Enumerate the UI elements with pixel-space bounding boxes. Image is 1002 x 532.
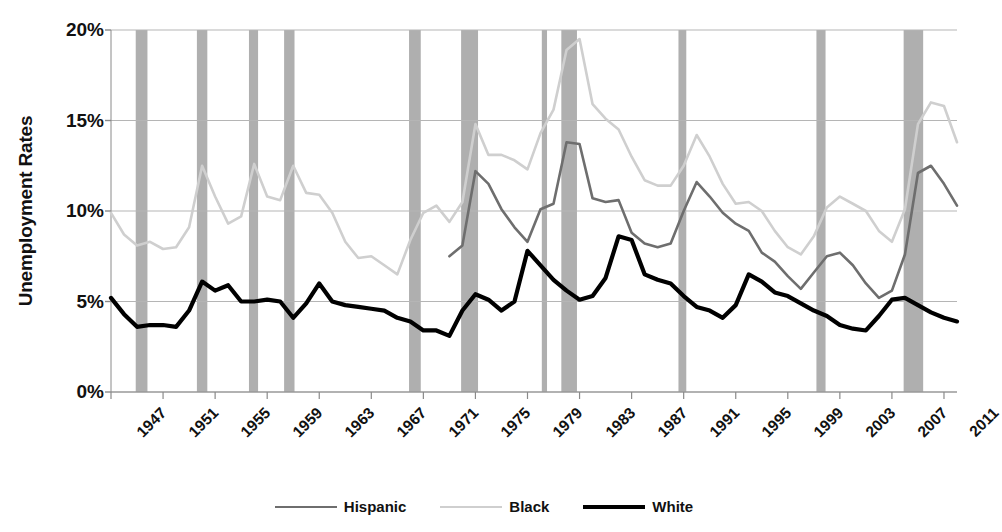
legend-label: Hispanic	[344, 498, 407, 515]
legend-swatch-hispanic	[275, 506, 337, 508]
y-axis-tick-label: 15%	[34, 110, 104, 132]
series-line-black	[111, 39, 957, 274]
legend-label: White	[652, 498, 693, 515]
legend-swatch-black	[440, 506, 502, 508]
y-axis-tick-label: 10%	[34, 200, 104, 222]
y-axis-tick-label: 5%	[34, 291, 104, 313]
y-axis-tick-labels: 0%5%10%15%20%	[34, 0, 104, 400]
series-line-white	[111, 236, 957, 336]
legend-swatch-white	[583, 505, 645, 509]
chart-legend: HispanicBlackWhite	[0, 498, 968, 515]
y-axis-tick-label: 0%	[34, 381, 104, 403]
series-line-hispanic	[449, 142, 957, 298]
legend-item-hispanic[interactable]: Hispanic	[275, 498, 407, 515]
x-axis-tick-label: 2011	[966, 404, 1002, 441]
y-axis-tick-label: 20%	[34, 19, 104, 41]
legend-item-black[interactable]: Black	[440, 498, 549, 515]
legend-item-white[interactable]: White	[583, 498, 693, 515]
legend-label: Black	[509, 498, 549, 515]
